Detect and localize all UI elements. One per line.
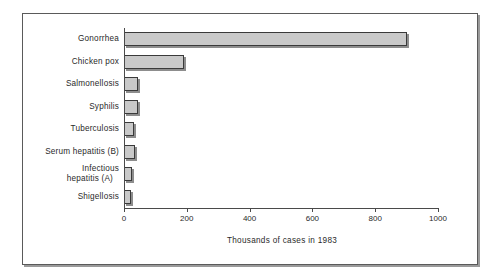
category-label-line: Syphilis — [23, 102, 119, 112]
x-tick-mark — [124, 208, 125, 212]
bar-chicken-pox — [124, 55, 184, 69]
x-tick-mark — [375, 208, 376, 212]
chart-figure-frame: GonorrheaChicken poxSalmonellosisSyphili… — [22, 13, 478, 265]
x-tick-label: 600 — [306, 214, 319, 223]
bar-infectious-hepatitis-a — [124, 167, 132, 181]
x-axis-line — [124, 208, 439, 209]
bar-salmonellosis — [124, 77, 138, 91]
category-label-line: Salmonellosis — [23, 79, 119, 89]
x-tick-label: 0 — [122, 214, 126, 223]
x-tick-label: 400 — [243, 214, 256, 223]
category-label: Gonorrhea — [23, 34, 119, 44]
x-tick-mark — [250, 208, 251, 212]
y-axis-line — [124, 28, 125, 209]
category-label: Chicken pox — [23, 57, 119, 67]
category-label-line: hepatitis (A) — [23, 174, 119, 184]
category-label: Tuberculosis — [23, 124, 119, 134]
x-tick-label: 800 — [369, 214, 382, 223]
category-label: Shigellosis — [23, 192, 119, 202]
category-label-line: Infectious — [23, 164, 119, 174]
category-label-line: Shigellosis — [23, 192, 119, 202]
category-axis-labels: GonorrheaChicken poxSalmonellosisSyphili… — [23, 28, 119, 208]
bar-syphilis — [124, 100, 138, 114]
x-tick-label: 200 — [180, 214, 193, 223]
x-tick-mark — [187, 208, 188, 212]
x-tick-mark — [438, 208, 439, 212]
plot-area — [124, 28, 440, 208]
category-label-line: Chicken pox — [23, 57, 119, 67]
x-tick-label: 1000 — [429, 214, 447, 223]
bar-shigellosis — [124, 190, 131, 204]
x-axis-title: Thousands of cases in 1983 — [124, 236, 440, 245]
category-label: Syphilis — [23, 102, 119, 112]
x-tick-mark — [312, 208, 313, 212]
category-label: Infectioushepatitis (A) — [23, 164, 119, 184]
category-label: Serum hepatitis (B) — [23, 147, 119, 157]
category-label-line: Gonorrhea — [23, 34, 119, 44]
bar-serum-hepatitis-b — [124, 145, 135, 159]
category-label-line: Tuberculosis — [23, 124, 119, 134]
bar-tuberculosis — [124, 122, 134, 136]
category-label: Salmonellosis — [23, 79, 119, 89]
bar-gonorrhea — [124, 32, 407, 46]
category-label-line: Serum hepatitis (B) — [23, 147, 119, 157]
